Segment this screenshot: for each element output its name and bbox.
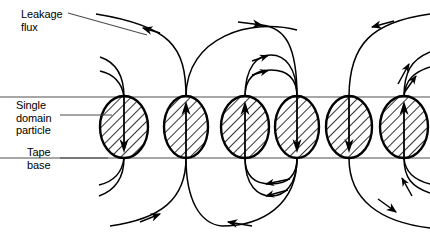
field-line-above-big-center-right xyxy=(262,25,297,97)
field-line-above-inner-1-arrow xyxy=(252,56,268,62)
label-tape-base: Tape base xyxy=(27,146,50,171)
field-lines-below xyxy=(99,158,430,228)
field-line-below-small-left-2 xyxy=(99,158,124,185)
label-leakage-flux: Leakage flux xyxy=(21,8,63,33)
field-line-below-big-right xyxy=(349,158,430,228)
field-line-above-outer-left xyxy=(96,14,186,97)
field-line-above-big-center xyxy=(186,26,297,97)
label-single-domain-particle: Single domain particle xyxy=(16,99,51,137)
field-line-below-inner-1 xyxy=(271,158,297,196)
flux-diagram xyxy=(0,0,430,239)
field-line-above-big-right xyxy=(349,14,430,97)
field-line-below-inner-1b xyxy=(245,158,271,196)
field-line-below-big-right-arrow xyxy=(378,199,396,212)
field-line-below-big-center-left xyxy=(186,158,222,226)
field-lines-above xyxy=(96,14,430,97)
field-line-above-inner-1 xyxy=(245,55,271,97)
field-line-above-big-center-arrow xyxy=(238,22,262,25)
diagram-root: Leakage flux Single domain particle Tape… xyxy=(0,0,430,239)
field-line-below-small-right-2 xyxy=(404,158,430,184)
particle-group xyxy=(100,96,428,158)
particle-6[interactable] xyxy=(380,96,428,158)
particle-3[interactable] xyxy=(221,96,269,158)
field-line-below-big-center-right xyxy=(222,158,297,226)
field-line-below-small-left-1 xyxy=(99,158,124,196)
particle-2[interactable] xyxy=(164,96,208,158)
particle-5[interactable] xyxy=(326,96,372,158)
particle-1[interactable] xyxy=(100,96,148,158)
particle-4[interactable] xyxy=(275,96,319,158)
field-line-above-inner-1b xyxy=(271,55,297,97)
field-line-above-small-right-1 xyxy=(404,52,430,97)
field-line-above-small-left-1 xyxy=(100,57,124,97)
